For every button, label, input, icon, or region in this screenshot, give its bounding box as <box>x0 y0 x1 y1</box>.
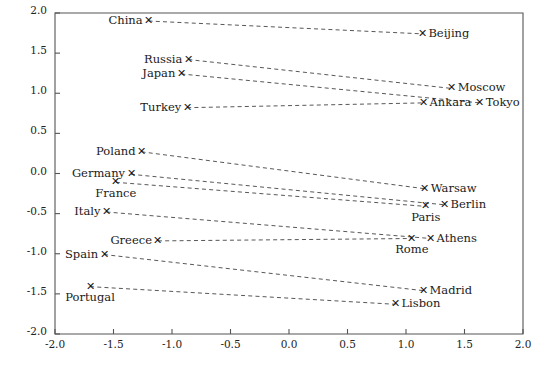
scatter-plot-canvas: -2.0-1.5-1.0-0.50.00.51.01.52.0 -2.0-1.5… <box>0 0 546 371</box>
marker-icon: ✕ <box>184 53 193 66</box>
city-point-label: Berlin <box>451 197 487 211</box>
connector-line <box>131 174 445 204</box>
city-point-label: Athens <box>436 231 477 245</box>
chart-figure: -2.0-1.5-1.0-0.50.00.51.01.52.0 -2.0-1.5… <box>0 0 546 371</box>
x-tick-label: -1.0 <box>162 338 182 350</box>
y-tick-label: -2.0 <box>27 325 47 337</box>
y-tick-label: 0.0 <box>30 165 47 177</box>
x-tick-label: -0.5 <box>220 338 240 350</box>
x-tick-label: -2.0 <box>45 338 65 350</box>
y-tick-label: -1.5 <box>27 285 47 297</box>
x-tick-label: 0.0 <box>281 338 298 350</box>
marker-icon: ✕ <box>137 145 146 158</box>
marker-icon: ✕ <box>153 234 162 247</box>
country-point-label: France <box>95 186 136 200</box>
country-point-label: Italy <box>74 204 101 218</box>
country-point-label: China <box>108 13 142 27</box>
y-tick-label: 1.5 <box>30 44 47 56</box>
y-tick-label: -1.0 <box>27 245 47 257</box>
marker-icon: ✕ <box>418 27 427 40</box>
connector-line <box>187 103 423 108</box>
x-axis-ticks: -2.0-1.5-1.0-0.50.00.51.01.52.0 <box>45 329 531 350</box>
marker-icon: ✕ <box>127 167 136 180</box>
x-tick-label: 0.5 <box>339 338 356 350</box>
y-tick-label: 0.5 <box>30 124 47 136</box>
city-point-label: Madrid <box>430 283 473 297</box>
city-point-label: Rome <box>395 242 428 256</box>
marker-icon: ✕ <box>419 96 428 109</box>
connector-line <box>149 21 423 34</box>
country-point-label: Portugal <box>65 290 115 304</box>
y-tick-label: 1.0 <box>30 84 47 96</box>
connector-line <box>142 152 425 189</box>
connector-line <box>158 239 412 241</box>
connector-line <box>188 60 451 89</box>
x-tick-label: 1.0 <box>398 338 415 350</box>
data-points: ✕China✕Beijing✕Russia✕Moscow✕Japan✕Tokyo… <box>65 13 520 310</box>
country-point-label: Turkey <box>140 100 181 114</box>
city-point-label: Beijing <box>428 26 470 40</box>
marker-icon: ✕ <box>177 67 186 80</box>
marker-icon: ✕ <box>475 96 484 109</box>
x-tick-label: 2.0 <box>515 338 532 350</box>
y-tick-label: -0.5 <box>27 205 47 217</box>
connector-line <box>90 287 395 305</box>
city-point-label: Paris <box>411 210 440 224</box>
country-point-label: Greece <box>110 233 152 247</box>
city-point-label: Lisbon <box>401 296 441 310</box>
country-point-label: Poland <box>96 144 136 158</box>
city-point-label: Warsaw <box>431 181 477 195</box>
marker-icon: ✕ <box>144 14 153 27</box>
connector-line <box>116 182 426 206</box>
marker-icon: ✕ <box>100 248 109 261</box>
country-point-label: Spain <box>65 247 99 261</box>
y-tick-label: 2.0 <box>30 4 47 16</box>
marker-icon: ✕ <box>102 205 111 218</box>
country-point-label: Japan <box>141 66 176 80</box>
city-point-label: Moscow <box>458 80 506 94</box>
x-tick-label: 1.5 <box>456 338 473 350</box>
city-point-label: Ankara <box>429 95 472 109</box>
city-point-label: Tokyo <box>486 95 520 109</box>
marker-icon: ✕ <box>447 81 456 94</box>
marker-icon: ✕ <box>440 198 449 211</box>
x-tick-label: -1.5 <box>103 338 123 350</box>
connector-line <box>104 255 423 291</box>
marker-icon: ✕ <box>183 101 192 114</box>
country-point-label: Russia <box>144 52 183 66</box>
marker-icon: ✕ <box>391 297 400 310</box>
marker-icon: ✕ <box>419 284 428 297</box>
marker-icon: ✕ <box>420 182 429 195</box>
